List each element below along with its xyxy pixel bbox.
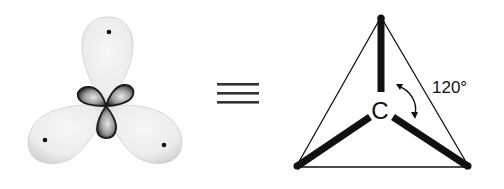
nucleus-dot-bottom-right: [162, 143, 167, 148]
sp2-orbital-diagram: C 120°: [0, 0, 504, 189]
bond-bottom-left: [296, 117, 370, 167]
bond-angle-label: 120°: [432, 78, 467, 97]
trigonal-planar-structure: C 120°: [294, 15, 472, 170]
carbon-atom-label: C: [371, 97, 388, 124]
hybrid-orbitals-illustration: [28, 17, 182, 164]
large-lobe-bottom-right: [106, 105, 182, 164]
vertex-top: [378, 15, 385, 22]
bond-bottom-right: [393, 117, 469, 167]
vertex-bottom-right: [465, 163, 472, 170]
equivalence-symbol: [217, 83, 259, 104]
nucleus-dot-top: [107, 30, 112, 35]
nucleus-dot-bottom-left: [43, 138, 48, 143]
vertex-bottom-left: [294, 163, 301, 170]
angle-arrow-icon: [396, 84, 418, 119]
large-lobe-bottom-left: [28, 105, 106, 164]
